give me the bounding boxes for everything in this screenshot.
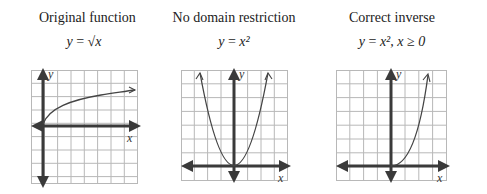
eq-rhs: x² xyxy=(239,34,249,49)
x-axis-label: x xyxy=(277,171,284,185)
eq-op: = xyxy=(76,34,84,49)
panel-3-equation: y = x², x ≥ 0 xyxy=(336,34,448,50)
eq-rhs: √x xyxy=(88,34,102,49)
eq-lhs: y xyxy=(359,34,365,49)
y-axis-label: y xyxy=(47,67,54,81)
eq-lhs: y xyxy=(66,34,72,49)
eq-lhs: y xyxy=(218,34,224,49)
eq-rhs: x², x ≥ 0 xyxy=(380,34,425,49)
eq-op: = xyxy=(369,34,377,49)
graph-half-parabola: y x xyxy=(336,70,447,181)
sqrt-curve xyxy=(43,90,135,124)
panel-2-title: No domain restriction xyxy=(169,10,299,26)
panel-1-equation: y = √x xyxy=(39,34,129,50)
graph-parabola: y x xyxy=(181,70,288,181)
y-axis-label: y xyxy=(238,67,245,81)
graph-sqrt: y x xyxy=(31,70,138,184)
x-axis-label: x xyxy=(126,131,133,145)
panel-3-title: Correct inverse xyxy=(336,10,448,26)
eq-op: = xyxy=(228,34,236,49)
x-axis-label: x xyxy=(436,171,443,185)
panel-2-equation: y = x² xyxy=(189,34,279,50)
panel-1-title: Original function xyxy=(39,10,129,26)
y-axis-label: y xyxy=(395,67,402,81)
